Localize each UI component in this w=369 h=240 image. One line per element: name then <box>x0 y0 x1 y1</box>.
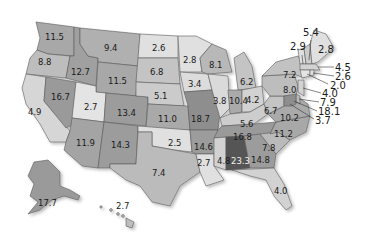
label-GA: 14.8 <box>251 155 270 165</box>
label-AR: 14.6 <box>194 142 213 152</box>
label-SD: 6.8 <box>150 67 164 77</box>
label-OR: 8.8 <box>38 57 52 67</box>
label-CA: 4.9 <box>28 107 42 117</box>
label-NM: 14.3 <box>111 140 130 150</box>
label-MI: 6.2 <box>240 77 254 87</box>
label-OK: 2.5 <box>168 138 182 148</box>
label-WY: 11.5 <box>108 76 127 86</box>
label-DC: 3.7 <box>315 115 331 126</box>
label-NH: 5.4 <box>303 27 319 38</box>
label-IA: 3.4 <box>188 79 202 89</box>
label-MT: 9.4 <box>104 43 118 53</box>
label-LA: 2.7 <box>197 158 211 168</box>
label-AZ: 11.9 <box>76 138 95 148</box>
label-KY: 5.6 <box>240 119 254 129</box>
label-NV: 16.7 <box>51 92 70 102</box>
label-HI: 2.7 <box>116 201 130 211</box>
state-MA <box>300 64 320 70</box>
label-PA: 8.0 <box>283 85 297 95</box>
label-CO: 13.4 <box>117 108 136 118</box>
label-WV: 6.7 <box>264 106 278 116</box>
label-TN: 16.8 <box>233 132 252 142</box>
label-VA: 10.2 <box>280 113 299 123</box>
label-MN: 2.8 <box>183 55 197 65</box>
label-ME: 2.8 <box>318 44 334 55</box>
label-KS: 11.0 <box>158 114 177 124</box>
label-AL: 23.3 <box>231 156 250 166</box>
label-FL: 4.0 <box>274 186 288 196</box>
label-AK: 17.7 <box>38 198 57 208</box>
label-IL: 3.8 <box>213 96 227 106</box>
label-ID: 12.7 <box>71 67 90 77</box>
label-OH: 4.2 <box>246 95 260 105</box>
label-NE: 5.1 <box>154 91 168 101</box>
label-WI: 8.1 <box>209 60 223 70</box>
label-SC: 7.8 <box>262 143 276 153</box>
label-UT: 2.7 <box>84 102 98 112</box>
label-VT: 2.9 <box>290 41 306 52</box>
us-choropleth-map: 11.5 8.8 4.9 16.7 12.7 9.4 11.5 2.7 13.4… <box>0 0 369 240</box>
label-NC: 11.2 <box>274 129 293 139</box>
label-TX: 7.4 <box>152 168 166 178</box>
label-MO: 18.7 <box>191 114 210 124</box>
label-WA: 11.5 <box>45 32 64 42</box>
label-MS: 4.8 <box>217 156 231 166</box>
state-CT <box>300 70 310 78</box>
label-ND: 2.6 <box>152 43 166 53</box>
label-NY: 7.2 <box>283 70 297 80</box>
